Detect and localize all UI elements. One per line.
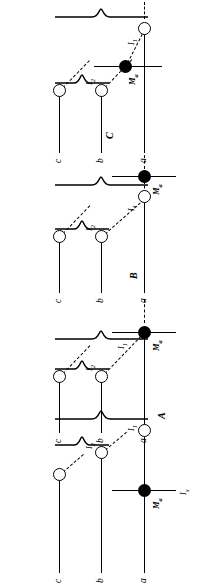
node-label-i1-base: I bbox=[117, 346, 126, 349]
node-label-marker-sub: a bbox=[156, 498, 163, 501]
node-label-marker-base: M bbox=[151, 501, 161, 509]
strand-line-b bbox=[101, 453, 102, 573]
node-i2 bbox=[95, 371, 108, 384]
node-label-i1: I1 bbox=[118, 343, 128, 349]
panel-label-b: B bbox=[128, 272, 139, 279]
node-label-i1-sub: 1 bbox=[131, 39, 138, 42]
brace-lower bbox=[54, 3, 149, 19]
strand-line-c bbox=[59, 475, 60, 573]
node-label-i2-sub: 2 bbox=[89, 225, 96, 228]
node-label-i2-base: I bbox=[85, 368, 94, 371]
node-label-i1-sub: 1 bbox=[121, 343, 128, 346]
node-i2 bbox=[95, 231, 108, 244]
node-label-i1-base: I bbox=[127, 42, 136, 45]
node-label-marker: Ma bbox=[152, 184, 163, 195]
node-i2 bbox=[95, 85, 108, 98]
node-marker-ma bbox=[138, 171, 151, 184]
node-label-marker: Ma bbox=[128, 74, 139, 85]
brace-lower bbox=[54, 171, 149, 187]
node-label-marker: Ma bbox=[152, 498, 163, 509]
node-label-i1-sub: 1 bbox=[131, 205, 138, 208]
node-label-i2-base: I bbox=[85, 228, 94, 231]
node-label-marker-base: M bbox=[127, 77, 137, 85]
node-label-i1-base: I bbox=[127, 428, 136, 431]
node-label-i1: I1 bbox=[128, 39, 138, 45]
node-i2 bbox=[95, 447, 108, 460]
node-label-i1-base: I bbox=[127, 208, 136, 211]
node-label-i2: I2 bbox=[86, 225, 96, 231]
node-label-i2: I2 bbox=[86, 443, 96, 449]
strand-line-a bbox=[144, 437, 145, 573]
brace-upper bbox=[54, 431, 110, 447]
node-c-terminal bbox=[53, 231, 66, 244]
node-i1 bbox=[138, 425, 151, 438]
brace-upper bbox=[54, 69, 110, 85]
strand-a-dash-extension bbox=[144, 139, 145, 169]
node-label-marker-base: M bbox=[151, 187, 161, 195]
node-label-ix-sub: x bbox=[183, 489, 190, 492]
brace-lower bbox=[54, 405, 149, 421]
strand-a-dash-extension bbox=[144, 299, 145, 323]
node-label-marker-base: M bbox=[151, 343, 161, 351]
brace-lower bbox=[54, 325, 149, 341]
node-label-marker: Ma bbox=[152, 340, 163, 351]
panel-label-a: A bbox=[156, 412, 167, 419]
row-label-a: a bbox=[139, 578, 149, 583]
node-label-i1-sub: 1 bbox=[131, 425, 138, 428]
node-label-i2-sub: 2 bbox=[89, 443, 96, 446]
node-c-terminal bbox=[53, 469, 66, 482]
node-label-i1: I1 bbox=[128, 425, 138, 431]
node-marker-ma bbox=[138, 327, 151, 340]
node-label-i1: I1 bbox=[128, 205, 138, 211]
node-label-ix-base: I bbox=[179, 492, 188, 495]
node-i1 bbox=[138, 191, 151, 204]
node-label-i2-base: I bbox=[85, 446, 94, 449]
brace-upper bbox=[54, 215, 110, 231]
node-c-terminal bbox=[53, 85, 66, 98]
panel-label-c: C bbox=[104, 132, 115, 139]
row-label-c: c bbox=[54, 579, 64, 583]
node-label-marker-sub: a bbox=[156, 340, 163, 343]
node-label-i2-sub: 2 bbox=[89, 365, 96, 368]
node-label-marker-sub: a bbox=[132, 74, 139, 77]
node-label-i2: I2 bbox=[86, 79, 96, 85]
node-label-i2: I2 bbox=[86, 365, 96, 371]
node-marker-ma bbox=[138, 485, 151, 498]
panel-a: c b a I2 I1 Ma Ix A bbox=[0, 420, 203, 559]
node-i1 bbox=[138, 23, 151, 36]
node-c-terminal bbox=[53, 371, 66, 384]
node-label-i2-base: I bbox=[85, 82, 94, 85]
node-label-marker-sub: a bbox=[156, 184, 163, 187]
row-label-b: b bbox=[96, 578, 106, 583]
brace-upper bbox=[54, 355, 110, 371]
node-label-ix: Ix bbox=[180, 489, 190, 495]
node-label-i2-sub: 2 bbox=[89, 79, 96, 82]
node-marker-ma bbox=[119, 61, 132, 74]
